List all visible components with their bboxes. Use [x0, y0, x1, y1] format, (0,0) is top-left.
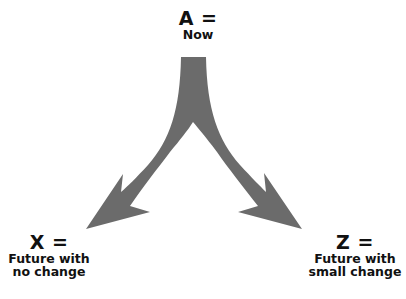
node-x-title: X =: [0, 232, 98, 252]
node-x-label: X = Future with no change: [0, 232, 98, 278]
node-a-title: A =: [153, 8, 243, 28]
node-z-title: Z =: [300, 232, 406, 252]
node-a-subtitle: Now: [153, 28, 243, 41]
node-z-label: Z = Future with small change: [300, 232, 406, 278]
split-arrow-shape: [86, 57, 302, 229]
node-x-subtitle-line2: no change: [0, 265, 98, 278]
node-a-label: A = Now: [153, 8, 243, 41]
node-z-subtitle-line2: small change: [300, 265, 406, 278]
